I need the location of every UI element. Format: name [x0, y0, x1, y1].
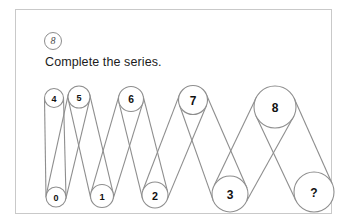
series-node-5: 5 — [68, 86, 90, 108]
screenshot-root: 8 Complete the series. 045162738? — [0, 0, 344, 224]
node-layer: 045162738? — [45, 86, 335, 213]
series-diagram: 045162738? — [16, 10, 333, 215]
series-node-6: 6 — [119, 87, 144, 112]
series-node-3: 3 — [212, 176, 248, 212]
series-node-2: 2 — [142, 182, 168, 208]
belt-link — [143, 96, 167, 192]
node-label: 4 — [51, 94, 56, 104]
belt-link — [90, 95, 113, 194]
belt-link — [214, 97, 256, 185]
belt-link — [66, 99, 90, 199]
node-label: ? — [310, 186, 317, 200]
belt-link — [91, 95, 119, 192]
node-label: 5 — [76, 93, 81, 103]
series-node-unknown[interactable]: ? — [294, 172, 334, 212]
node-label: 2 — [152, 190, 158, 202]
belt-link — [167, 105, 206, 199]
series-node-7: 7 — [179, 86, 208, 115]
series-node-1: 1 — [91, 185, 114, 208]
node-label: 1 — [99, 191, 104, 202]
belt-link — [246, 116, 294, 202]
belt-link — [113, 102, 143, 199]
belt-link — [68, 100, 91, 199]
question-card: 8 Complete the series. 045162738? — [15, 9, 332, 214]
series-node-4: 4 — [45, 89, 64, 108]
belt-link — [294, 98, 332, 183]
belt-link — [207, 95, 247, 188]
series-node-8: 8 — [254, 86, 296, 128]
belt-link — [45, 98, 47, 197]
series-node-0: 0 — [46, 187, 66, 207]
node-label: 8 — [272, 101, 279, 115]
node-label: 3 — [227, 188, 234, 202]
node-label: 7 — [190, 94, 197, 108]
belt-link — [143, 94, 180, 190]
node-label: 6 — [128, 94, 134, 105]
belt-link — [180, 106, 214, 201]
node-label: 0 — [53, 193, 58, 203]
